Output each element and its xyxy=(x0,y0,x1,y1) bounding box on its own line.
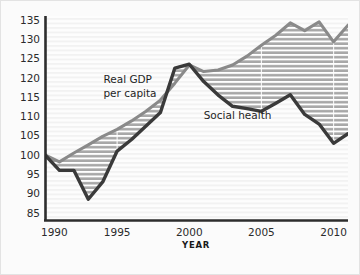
y-tick-95: 95 xyxy=(27,168,40,180)
x-tick-2000: 2000 xyxy=(176,226,203,238)
x-tick-2010: 2010 xyxy=(320,226,347,238)
x-tick-1995: 1995 xyxy=(104,226,131,238)
y-tick-115: 115 xyxy=(20,91,40,103)
y-tick-135: 135 xyxy=(20,14,40,26)
y-axis-tick-labels: 859095100105110115120125130135 xyxy=(20,14,40,219)
annotation-social-health: Social health xyxy=(204,109,272,121)
x-tick-1990: 1990 xyxy=(41,226,68,238)
y-tick-130: 130 xyxy=(20,33,40,45)
annotation-per-capita: per capita xyxy=(103,87,156,99)
chart-figure: 859095100105110115120125130135 199019952… xyxy=(0,0,360,275)
x-tick-2005: 2005 xyxy=(248,226,275,238)
y-tick-125: 125 xyxy=(20,52,40,64)
y-tick-85: 85 xyxy=(27,207,40,219)
y-tick-90: 90 xyxy=(27,187,40,199)
y-tick-120: 120 xyxy=(20,72,40,84)
y-tick-100: 100 xyxy=(20,149,40,161)
x-axis-title: YEAR xyxy=(181,240,210,250)
annotation-real-gdp: Real GDP xyxy=(103,73,152,85)
y-tick-110: 110 xyxy=(20,110,40,122)
y-tick-105: 105 xyxy=(20,129,40,141)
line-chart: 859095100105110115120125130135 199019952… xyxy=(0,0,360,275)
x-axis-tick-labels: 19901995200020052010 xyxy=(41,226,347,238)
